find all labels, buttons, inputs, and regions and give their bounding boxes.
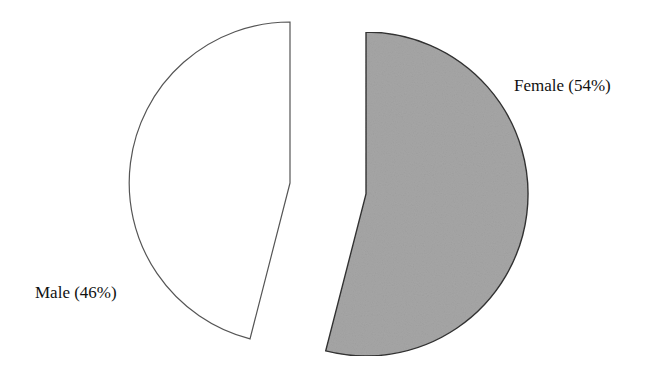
pie-slice-female: [326, 32, 528, 356]
label-male: Male (46%): [35, 283, 117, 303]
label-female: Female (54%): [514, 76, 611, 96]
pie-chart: [0, 0, 664, 386]
pie-slice-male: [129, 22, 290, 339]
